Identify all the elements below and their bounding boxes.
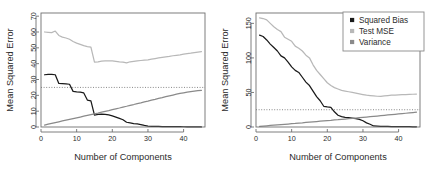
y-tick-label: 40 xyxy=(29,60,38,68)
x-axis-title: Number of Components xyxy=(289,152,387,162)
y-tick-label: 70 xyxy=(29,12,38,20)
x-tick-label: 30 xyxy=(144,134,152,143)
chart-panel-right: 010203040050100150Number of ComponentsMe… xyxy=(215,0,430,178)
legend-label: Squared Bias xyxy=(359,16,408,25)
legend-label: Variance xyxy=(359,38,391,47)
y-tick-label: 0 xyxy=(29,125,38,129)
legend-square-marker xyxy=(350,40,354,44)
x-tick-label: 30 xyxy=(359,134,367,143)
x-tick-label: 10 xyxy=(73,134,81,143)
y-tick-label: 0 xyxy=(244,125,253,129)
y-tick-label: 50 xyxy=(29,44,38,52)
plot-frame xyxy=(41,13,205,127)
x-axis-title: Number of Components xyxy=(74,152,172,162)
series-line-test-mse xyxy=(45,31,202,63)
legend-label: Test MSE xyxy=(359,27,395,36)
y-axis-title: Mean Squared Error xyxy=(220,28,230,111)
legend-square-marker xyxy=(350,29,354,33)
x-tick-label: 20 xyxy=(323,134,331,143)
series-line-variance xyxy=(260,112,417,126)
y-tick-label: 20 xyxy=(29,91,38,99)
legend-square-marker xyxy=(350,18,354,22)
y-tick-label: 30 xyxy=(29,76,38,84)
bias-variance-figure: 010203040010203040506070Number of Compon… xyxy=(0,0,430,178)
x-tick-label: 10 xyxy=(288,134,296,143)
x-tick-label: 0 xyxy=(254,134,258,143)
y-tick-label: 100 xyxy=(244,52,253,64)
y-tick-label: 60 xyxy=(29,28,38,36)
series-line-squared-bias xyxy=(45,74,202,126)
y-tick-label: 50 xyxy=(244,88,253,96)
x-tick-label: 0 xyxy=(39,134,43,143)
y-tick-label: 150 xyxy=(244,17,253,29)
x-tick-label: 40 xyxy=(395,134,403,143)
y-tick-label: 10 xyxy=(29,107,38,115)
x-tick-label: 40 xyxy=(180,134,188,143)
chart-panel-left: 010203040010203040506070Number of Compon… xyxy=(0,0,215,178)
y-axis-title: Mean Squared Error xyxy=(5,28,15,111)
x-tick-label: 20 xyxy=(108,134,116,143)
